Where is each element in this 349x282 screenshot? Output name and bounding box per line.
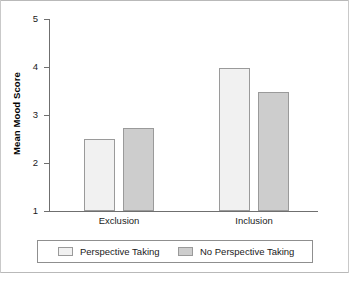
y-axis-line — [49, 19, 50, 211]
legend-entry-perspective-taking: Perspective Taking — [58, 246, 160, 257]
x-axis-line — [49, 211, 318, 212]
y-tick-mark-2 — [44, 163, 49, 164]
x-tick-label-exclusion: Exclusion — [69, 215, 169, 227]
bar-inclusion-perspective-taking — [219, 68, 250, 211]
x-tick-label-inclusion: Inclusion — [204, 215, 304, 227]
y-axis-title: Mean Mood Score — [11, 62, 22, 166]
y-tick-mark-5 — [44, 19, 49, 20]
y-tick-mark-3 — [44, 115, 49, 116]
legend-swatch-light-icon — [58, 247, 73, 256]
chart-legend: Perspective Taking No Perspective Taking — [37, 240, 313, 263]
bar-inclusion-no-perspective-taking — [258, 92, 289, 211]
y-tick-mark-1 — [44, 211, 49, 212]
bar-exclusion-no-perspective-taking — [123, 128, 154, 211]
y-tick-mark-4 — [44, 67, 49, 68]
y-tick-label-5: 5 — [16, 14, 38, 24]
bar-exclusion-perspective-taking — [84, 139, 115, 211]
y-tick-label-1: 1 — [16, 206, 38, 216]
legend-entry-no-perspective-taking: No Perspective Taking — [178, 246, 294, 257]
legend-label-no-perspective-taking: No Perspective Taking — [200, 246, 294, 257]
legend-swatch-dark-icon — [178, 247, 193, 256]
figure-container: 1 2 3 4 5 Mean Mood Score Exclusion Incl… — [0, 0, 349, 282]
legend-label-perspective-taking: Perspective Taking — [80, 246, 160, 257]
